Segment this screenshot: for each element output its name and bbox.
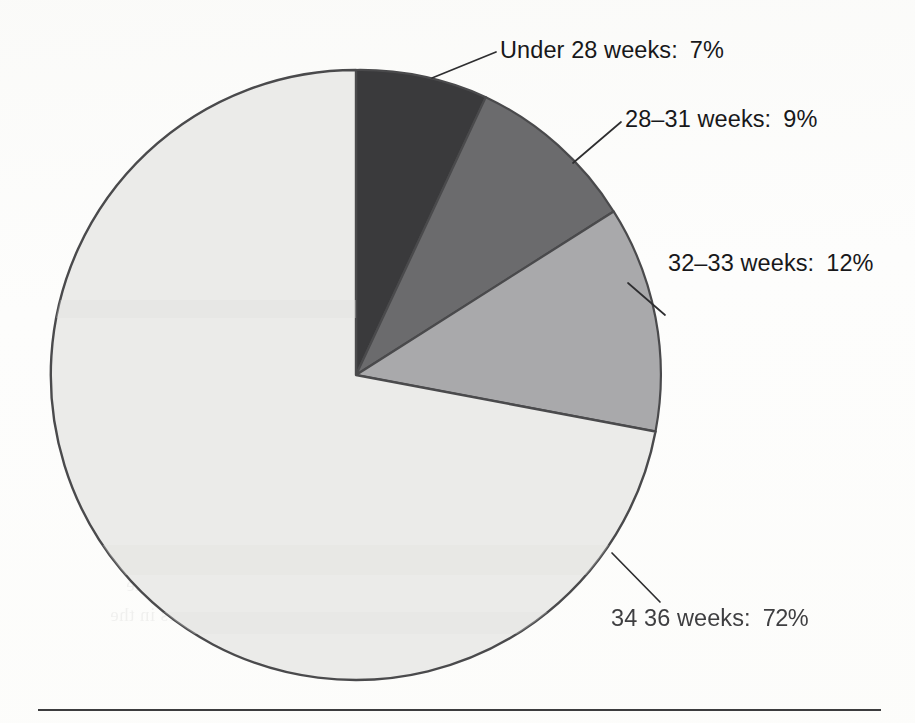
slice-label-32-33-weeks: 32–33 weeks:12% <box>668 250 874 277</box>
slice-label-34-36-weeks: 34 36 weeks:72% <box>611 605 808 632</box>
pie-chart-page: relates, 1970–1974,nary Services Centert… <box>0 0 915 723</box>
slice-label-name-32-33-weeks: 32–33 weeks: <box>668 250 814 276</box>
leader-line-under-28-weeks <box>432 52 496 78</box>
slice-label-percent-34-36-weeks: 72% <box>763 605 809 631</box>
slice-label-under-28-weeks: Under 28 weeks:7% <box>500 37 724 64</box>
slice-label-percent-under-28-weeks: 7% <box>690 37 724 63</box>
slice-label-name-34-36-weeks: 34 36 weeks: <box>611 605 751 631</box>
leader-line-34-36-weeks <box>612 553 660 602</box>
slice-label-percent-28-31-weeks: 9% <box>783 106 817 132</box>
slice-label-percent-32-33-weeks: 12% <box>826 250 873 276</box>
slice-label-28-31-weeks: 28–31 weeks:9% <box>625 106 817 133</box>
leader-line-28-31-weeks <box>573 122 621 163</box>
footer-horizontal-rule <box>38 709 881 711</box>
pie-slices <box>51 70 661 680</box>
slice-label-name-under-28-weeks: Under 28 weeks: <box>500 37 678 63</box>
slice-label-name-28-31-weeks: 28–31 weeks: <box>625 106 771 132</box>
